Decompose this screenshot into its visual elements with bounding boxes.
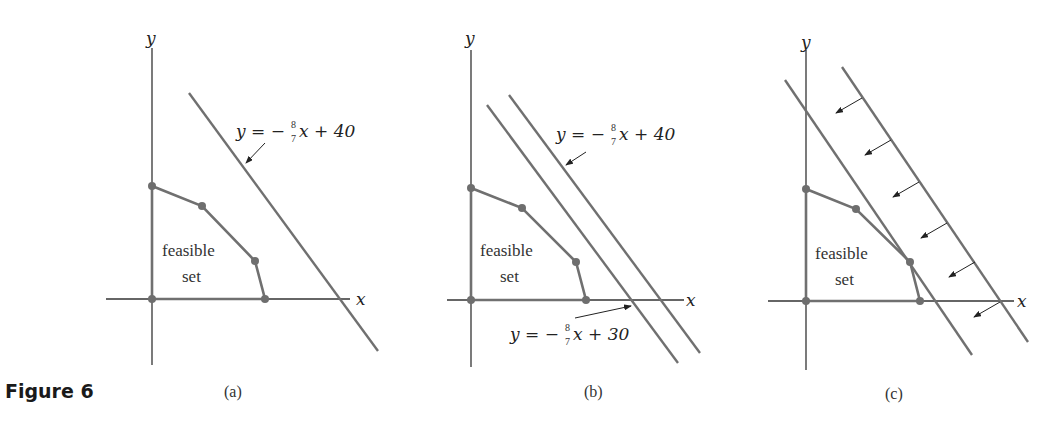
caption-a: (a) xyxy=(224,383,242,401)
svg-text:x + 40: x + 40 xyxy=(619,124,675,144)
label-pointer-arrow-40 xyxy=(566,152,586,165)
svg-text:7: 7 xyxy=(611,136,616,147)
svg-text:8: 8 xyxy=(291,119,296,130)
direction-arrow-icon xyxy=(865,140,891,155)
x-axis-label: x xyxy=(356,289,366,309)
equation-label-30: y = − 8 7 x + 30 xyxy=(509,322,629,347)
caption-c: (c) xyxy=(885,385,903,403)
y-axis-label: y xyxy=(464,28,475,48)
feasible-label: feasible xyxy=(162,241,215,260)
feasible-label: feasible xyxy=(480,241,533,260)
direction-arrow-icon xyxy=(949,262,975,277)
direction-arrows xyxy=(836,98,1000,317)
set-label: set xyxy=(500,267,519,286)
panel-c: y x feasible set (c) xyxy=(768,32,1028,403)
set-label: set xyxy=(182,267,201,286)
svg-text:x + 40: x + 40 xyxy=(299,121,355,141)
y-axis-label: y xyxy=(800,32,811,52)
svg-text:y = −: y = − xyxy=(235,121,285,141)
y-axis-label: y xyxy=(145,28,156,48)
x-axis-label: x xyxy=(1017,291,1027,311)
figure-canvas: y x feasible set y = − 8 7 x + 40 (a) y … xyxy=(0,0,1056,427)
set-label: set xyxy=(835,270,854,289)
direction-arrow-icon xyxy=(893,182,919,197)
svg-text:7: 7 xyxy=(565,336,570,347)
figure-label: Figure 6 xyxy=(5,380,94,402)
caption-b: (b) xyxy=(584,383,603,401)
label-pointer-arrow-30 xyxy=(575,306,631,318)
svg-text:y = −: y = − xyxy=(509,324,559,344)
svg-text:7: 7 xyxy=(291,133,296,144)
feasible-label: feasible xyxy=(815,244,868,263)
svg-text:8: 8 xyxy=(611,122,616,133)
svg-text:x + 30: x + 30 xyxy=(573,324,629,344)
x-axis-label: x xyxy=(686,290,696,310)
label-pointer-arrow xyxy=(246,143,265,163)
equation-label-40: y = − 8 7 x + 40 xyxy=(235,119,355,144)
direction-arrow-icon xyxy=(921,223,947,238)
svg-text:y = −: y = − xyxy=(555,124,605,144)
direction-arrow-icon xyxy=(836,98,862,113)
svg-text:8: 8 xyxy=(565,322,570,333)
panel-b: y x feasible set y = − 8 7 x + 40 y = − … xyxy=(447,28,700,401)
equation-label-40: y = − 8 7 x + 40 xyxy=(555,122,675,147)
panel-a: y x feasible set y = − 8 7 x + 40 (a) xyxy=(106,28,378,401)
direction-arrow-icon xyxy=(974,302,1000,317)
